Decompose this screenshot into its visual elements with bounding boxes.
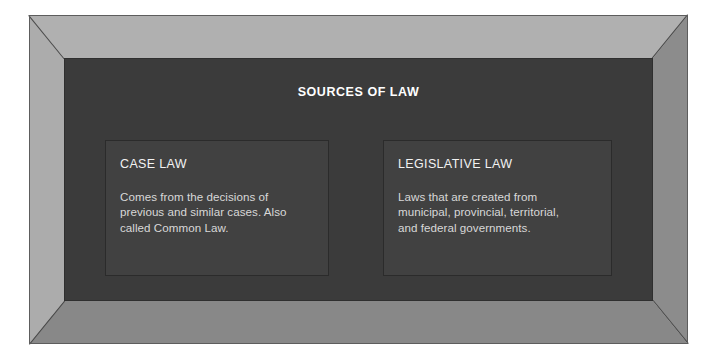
card-case-law: CASE LAW Comes from the decisions of pre… <box>105 140 329 276</box>
sources-of-law-panel: SOURCES OF LAW CASE LAW Comes from the d… <box>64 58 653 301</box>
card-body-legislative-law: Laws that are created from municipal, pr… <box>398 189 597 235</box>
card-heading-legislative-law: LEGISLATIVE LAW <box>398 157 597 171</box>
card-legislative-law: LEGISLATIVE LAW Laws that are created fr… <box>383 140 612 276</box>
card-body-case-law: Comes from the decisions of previous and… <box>120 189 314 235</box>
picture-frame: SOURCES OF LAW CASE LAW Comes from the d… <box>29 15 688 344</box>
card-heading-case-law: CASE LAW <box>120 157 314 171</box>
page-title: SOURCES OF LAW <box>65 85 652 99</box>
diagram-canvas: SOURCES OF LAW CASE LAW Comes from the d… <box>0 0 714 357</box>
